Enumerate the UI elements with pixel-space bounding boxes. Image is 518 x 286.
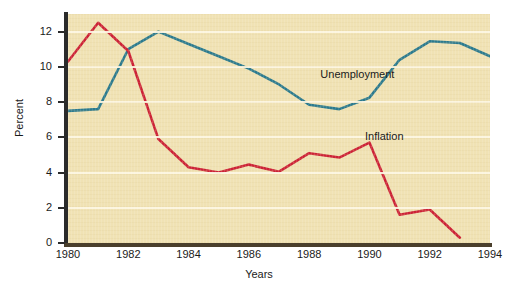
y-axis-tick: [58, 101, 65, 103]
y-axis-line: [64, 12, 68, 245]
x-axis-tick-label: 1980: [48, 249, 88, 260]
y-axis-tick-label: 2: [30, 202, 52, 213]
y-axis-tick: [58, 207, 65, 209]
gridline: [68, 66, 490, 68]
plot-area: [68, 14, 490, 243]
y-axis-tick: [58, 136, 65, 138]
x-axis-tick-label: 1984: [169, 249, 209, 260]
y-axis-tick: [58, 66, 65, 68]
series-label-inflation: Inflation: [365, 130, 404, 142]
y-axis-tick-label: 12: [30, 26, 52, 37]
gridline: [68, 172, 490, 174]
x-axis-tick-label: 1982: [108, 249, 148, 260]
x-axis-tick-label: 1986: [229, 249, 269, 260]
line-unemployment: [68, 32, 490, 111]
gridline: [68, 101, 490, 103]
gridline: [68, 31, 490, 33]
y-axis-tick-label: 8: [30, 96, 52, 107]
y-axis-tick-label: 10: [30, 61, 52, 72]
y-axis-tick: [58, 172, 65, 174]
x-axis-title: Years: [0, 268, 518, 280]
gridline: [68, 136, 490, 138]
series-label-unemployment: Unemployment: [320, 68, 394, 80]
x-axis-tick-label: 1992: [410, 249, 450, 260]
x-axis-line: [64, 243, 492, 247]
y-axis-title: Percent: [13, 88, 25, 148]
x-axis-tick-label: 1994: [470, 249, 510, 260]
x-axis-tick-label: 1988: [289, 249, 329, 260]
y-axis-tick: [58, 242, 65, 244]
y-axis-tick: [58, 31, 65, 33]
y-axis-tick-label: 6: [30, 131, 52, 142]
y-axis-tick-label: 0: [30, 237, 52, 248]
y-axis-tick-label: 4: [30, 167, 52, 178]
gridline: [68, 207, 490, 209]
x-axis-tick-label: 1990: [349, 249, 389, 260]
chart-figure: 024681012 198019821984198619881990199219…: [0, 0, 518, 286]
